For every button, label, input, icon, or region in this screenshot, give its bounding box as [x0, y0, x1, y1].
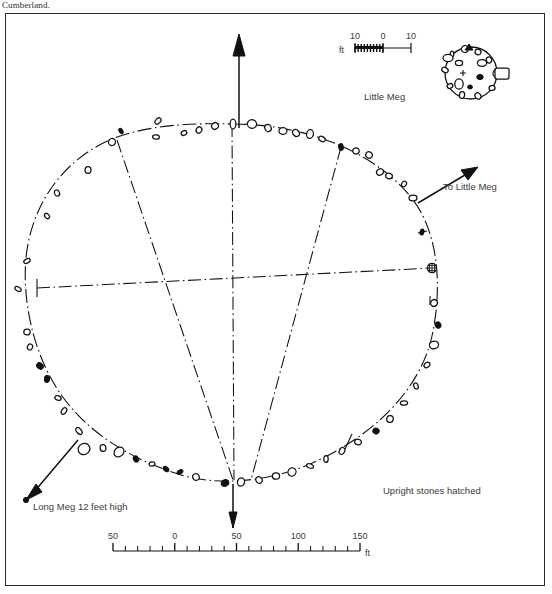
stone-marker	[26, 343, 33, 351]
stone-marker	[60, 407, 68, 416]
stone-marker	[474, 49, 481, 56]
stone-marker	[14, 286, 22, 293]
stone-marker	[100, 444, 107, 452]
stone-marker	[338, 143, 344, 150]
stone-marker	[44, 376, 49, 383]
stone-marker	[324, 455, 329, 462]
stone-marker	[112, 445, 126, 459]
stone-marker	[400, 180, 407, 187]
scale-tick-label: 100	[291, 531, 306, 541]
stone-marker	[423, 361, 431, 368]
stone-marker	[385, 172, 393, 179]
stone-marker	[279, 127, 288, 134]
north-arrow	[233, 34, 245, 128]
stone-marker	[375, 167, 384, 176]
little-meg-inset	[441, 44, 509, 100]
scale-tick-label: 50	[108, 531, 118, 541]
site-plan-figure: To Little Meg Long Meg 12 feet high Upri…	[0, 0, 552, 594]
stone-marker	[23, 329, 30, 336]
stone-marker	[23, 258, 31, 265]
stone-marker	[459, 91, 465, 99]
stone-marker	[230, 119, 236, 129]
stone-marker	[154, 117, 162, 125]
stone-marker	[162, 465, 170, 472]
stone-marker	[149, 461, 156, 467]
scale-tick-label: 50	[231, 531, 241, 541]
stone-marker	[255, 475, 264, 484]
long-meg-arrow	[23, 440, 78, 503]
main-scale-bar: 50050100150 ft	[108, 531, 371, 558]
stone-marker	[85, 167, 91, 174]
stone-marker	[434, 321, 442, 329]
stone-marker	[220, 478, 230, 487]
stone-marker	[386, 415, 394, 423]
stone-marker	[354, 439, 361, 445]
stone-marker	[413, 382, 419, 389]
stone-marker	[118, 128, 124, 135]
stone-marker	[489, 85, 495, 90]
stone-marker	[409, 195, 417, 201]
stone-marker	[306, 129, 314, 139]
stone-marker	[210, 121, 219, 130]
inset-scale-tick-label: 10	[406, 31, 416, 41]
stone-marker	[195, 126, 203, 134]
stone-marker	[76, 442, 91, 457]
scale-tick-label: 150	[352, 531, 367, 541]
stone-marker	[54, 395, 61, 401]
stone-marker	[237, 477, 246, 487]
inset-scale-tick-label: 0	[380, 31, 385, 41]
long-meg-label: Long Meg 12 feet high	[33, 501, 128, 512]
stone-marker	[75, 426, 84, 435]
stone-marker	[272, 473, 279, 480]
stone-marker	[246, 119, 257, 130]
stone-marker	[43, 212, 50, 219]
stone-marker	[291, 128, 301, 138]
long-meg-arrow-down	[229, 484, 237, 528]
stone-marker	[318, 135, 326, 142]
stone-marker	[352, 147, 360, 154]
stone-marker	[400, 401, 407, 406]
main-scale-unit: ft	[365, 548, 371, 558]
stone-marker	[338, 447, 346, 456]
ring-stone-group	[14, 117, 442, 488]
stone-marker	[107, 137, 116, 146]
little-meg-label: Little Meg	[364, 91, 405, 102]
stone-marker	[180, 130, 187, 137]
stone-marker	[176, 469, 184, 476]
legend-note: Upright stones hatched	[383, 485, 481, 496]
stone-marker	[306, 463, 314, 469]
inset-scale-solid-block	[355, 46, 383, 49]
inset-scale-bar: ft 10 0 10	[339, 31, 416, 55]
stone-marker	[419, 229, 424, 236]
to-little-meg-label: To Little Meg	[443, 181, 497, 192]
stone-marker	[372, 427, 380, 435]
stone-marker	[286, 466, 297, 477]
inset-scale-unit: ft	[339, 45, 345, 55]
stone-marker	[54, 189, 61, 197]
stone-marker	[264, 123, 273, 132]
inset-scale-tick-label: 10	[350, 31, 360, 41]
stone-marker	[192, 473, 200, 481]
stone-marker	[152, 135, 159, 140]
scale-tick-label: 0	[172, 531, 177, 541]
